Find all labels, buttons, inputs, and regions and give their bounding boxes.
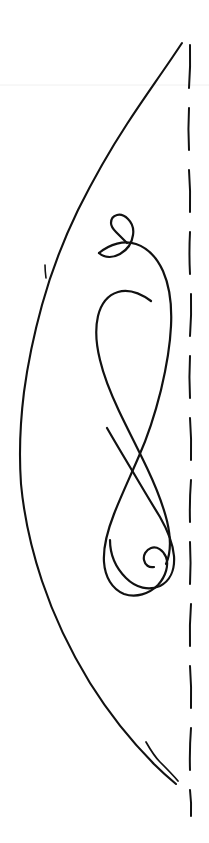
dash-segment (189, 232, 190, 274)
dash-segment (188, 108, 189, 150)
dash-segment (189, 356, 190, 398)
dash-segment (190, 790, 191, 816)
dash-segment (189, 45, 190, 88)
dash-segment (190, 418, 191, 460)
sketch-canvas: Hand-drawn ink sketch A monochrome pen-a… (0, 0, 209, 843)
dash-segment (190, 728, 191, 770)
dash-segment (189, 170, 190, 212)
paper-background (0, 0, 209, 843)
sketch-illustration (0, 0, 209, 843)
dash-segment (190, 480, 191, 522)
dash-segment (190, 542, 191, 584)
dash-segment (190, 666, 191, 708)
dash-segment (190, 294, 191, 336)
dash-segment (190, 604, 191, 646)
